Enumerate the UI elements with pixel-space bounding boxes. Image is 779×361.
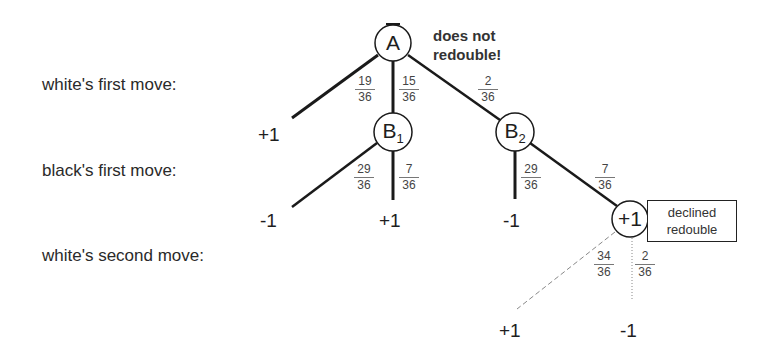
prob-a-right-num: 2 bbox=[485, 74, 492, 88]
node-b1-label: B bbox=[382, 119, 396, 142]
prob-a-left-den: 36 bbox=[358, 90, 371, 104]
prob-b1-right: 736 bbox=[398, 163, 420, 192]
node-a: A bbox=[373, 31, 413, 55]
leaf-b1-left: -1 bbox=[260, 210, 277, 232]
node-b1: B1 bbox=[373, 119, 413, 151]
annotation-does-not-redouble: does not redouble! bbox=[433, 26, 501, 64]
prob-p-right-den: 36 bbox=[638, 265, 651, 279]
prob-b1-right-den: 36 bbox=[402, 178, 415, 192]
prob-p-right: 236 bbox=[634, 250, 656, 279]
prob-b2-right-den: 36 bbox=[598, 178, 611, 192]
node-b2: B2 bbox=[495, 119, 535, 151]
leaf-p-left: +1 bbox=[499, 320, 521, 342]
annotation-line2: redouble! bbox=[433, 45, 501, 64]
node-b1-sub: 1 bbox=[396, 131, 403, 146]
prob-b1-left-den: 36 bbox=[357, 178, 370, 192]
prob-b2-right-num: 7 bbox=[602, 162, 609, 176]
annotation-line1: does not bbox=[433, 26, 501, 45]
prob-p-left-den: 36 bbox=[597, 265, 610, 279]
prob-b1-left-num: 29 bbox=[357, 162, 370, 176]
prob-a-left-num: 19 bbox=[358, 74, 371, 88]
prob-a-mid-den: 36 bbox=[402, 90, 415, 104]
prob-b1-right-num: 7 bbox=[406, 162, 413, 176]
node-b2-sub: 2 bbox=[518, 131, 525, 146]
prob-p-left-num: 34 bbox=[597, 249, 610, 263]
prob-b1-left: 2936 bbox=[353, 163, 375, 192]
row-label-black-first: black's first move: bbox=[42, 161, 177, 181]
prob-a-mid-num: 15 bbox=[402, 74, 415, 88]
leaf-a-left: +1 bbox=[258, 124, 280, 146]
prob-b2-left-num: 29 bbox=[524, 162, 537, 176]
row-label-white-first: white's first move: bbox=[42, 75, 177, 95]
leaf-p-right: -1 bbox=[620, 320, 637, 342]
declined-box-line1: declined bbox=[648, 204, 736, 221]
leaf-b2-left: -1 bbox=[503, 210, 520, 232]
leaf-b1-right: +1 bbox=[379, 210, 401, 232]
declined-box-line2: redouble bbox=[648, 221, 736, 238]
prob-p-right-num: 2 bbox=[642, 249, 649, 263]
prob-b2-right: 736 bbox=[594, 163, 616, 192]
declined-redouble-box: declined redouble bbox=[647, 200, 737, 242]
node-a-label: A bbox=[386, 31, 400, 54]
prob-p-left: 3436 bbox=[593, 250, 615, 279]
prob-a-mid: 1536 bbox=[398, 75, 420, 104]
node-b2-label: B bbox=[504, 119, 518, 142]
node-plus1: +1 bbox=[610, 207, 650, 231]
prob-a-right: 236 bbox=[477, 75, 499, 104]
prob-b2-left: 2936 bbox=[520, 163, 542, 192]
node-plus1-label: +1 bbox=[618, 207, 642, 230]
prob-a-right-den: 36 bbox=[481, 90, 494, 104]
prob-a-left: 1936 bbox=[354, 75, 376, 104]
row-label-white-second: white's second move: bbox=[42, 246, 204, 266]
prob-b2-left-den: 36 bbox=[524, 178, 537, 192]
